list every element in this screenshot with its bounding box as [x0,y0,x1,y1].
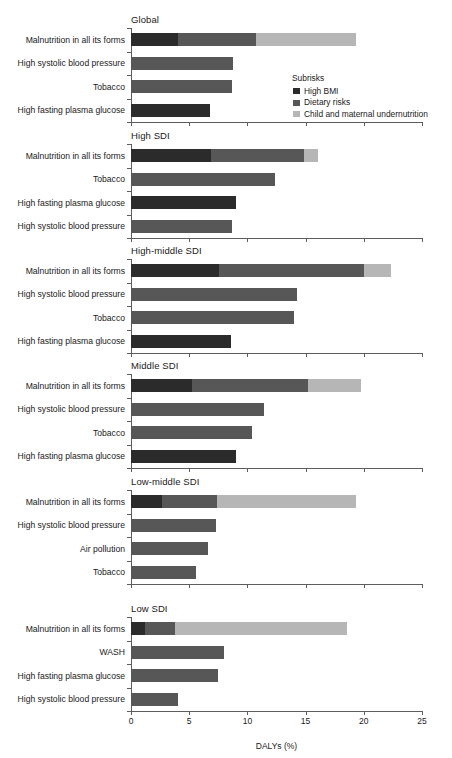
x-axis [131,353,422,354]
legend-label-child-maternal-undernutrition: Child and maternal undernutrition [304,109,428,121]
y-axis-tick [127,191,131,192]
x-axis [131,122,422,123]
x-axis-tick [306,468,307,472]
bar-segment-under [308,379,362,392]
bar-row: High systolic blood pressure [131,57,422,70]
bar-segment-diet [131,403,264,416]
bar-row: High systolic blood pressure [131,288,422,301]
x-axis-tick [247,353,248,357]
bar-segment-bmi [131,495,162,508]
y-axis-tick [127,215,131,216]
bar-segment-diet [131,311,294,324]
bar-row-label: Tobacco [93,82,125,92]
bar-row: Air pollution [131,542,422,555]
bar-segment-diet [211,149,304,162]
x-axis-tick [247,711,248,715]
bar-segment-bmi [131,149,211,162]
y-axis-tick [127,99,131,100]
bar-row: Tobacco [131,566,422,579]
panel-title: Low-middle SDI [131,476,199,487]
bar-segment-under [217,495,356,508]
bar-row: Tobacco [131,426,422,439]
bar-segment-diet [131,57,233,70]
plot-area: Malnutrition in all its formsHigh systol… [131,490,422,584]
legend-item-child-maternal-undernutrition: Child and maternal undernutrition [292,109,428,121]
bar-row: Malnutrition in all its forms [131,495,422,508]
x-axis-tick [131,711,132,715]
y-axis-tick [127,330,131,331]
bar-row: High systolic blood pressure [131,220,422,233]
bar-row-label: Tobacco [93,428,125,438]
bar-row-label: Malnutrition in all its forms [26,497,125,507]
bar-row-label: Malnutrition in all its forms [26,266,125,276]
x-axis-tick [189,122,190,126]
y-axis-tick [127,664,131,665]
plot-area: Malnutrition in all its formsHigh systol… [131,374,422,468]
y-axis-tick [127,374,131,375]
bar-row: Malnutrition in all its forms [131,33,422,46]
bar-segment-diet [162,495,217,508]
bar-segment-under [256,33,356,46]
bar-row-label: High systolic blood pressure [18,58,125,68]
legend-item-high-bmi: High BMI [292,86,428,98]
bar-row: High fasting plasma glucose [131,196,422,209]
x-axis-tick [422,468,423,472]
y-axis-tick [127,490,131,491]
x-axis-tick-label: 25 [417,716,426,726]
legend-swatch-high-bmi [292,87,301,95]
bar-row-label: Malnutrition in all its forms [26,381,125,391]
x-axis-tick [364,353,365,357]
x-axis-tick [364,468,365,472]
bar-segment-under [175,622,347,635]
y-axis-tick [127,537,131,538]
bar-segment-bmi [131,335,231,348]
bar-segment-under [304,149,318,162]
bar-row-label: High fasting plasma glucose [18,198,125,208]
legend-swatch-dietary-risks [292,99,301,107]
x-axis-tick [422,122,423,126]
bar-segment-diet [131,542,208,555]
bar-segment-diet [131,566,196,579]
y-axis-tick [127,283,131,284]
bar-row-label: High systolic blood pressure [18,520,125,530]
bar-row-label: Malnutrition in all its forms [26,624,125,634]
x-axis-tick [247,468,248,472]
legend-label-dietary-risks: Dietary risks [304,97,350,109]
panel-title: Low SDI [131,603,168,614]
x-axis-tick [189,584,190,588]
x-axis: 0510152025 [131,711,422,712]
x-axis-tick [364,711,365,715]
bar-row-label: Malnutrition in all its forms [26,35,125,45]
x-axis-tick [306,711,307,715]
x-axis-tick-label: 15 [301,716,310,726]
x-axis-tick [364,122,365,126]
y-axis-tick [127,306,131,307]
x-axis-tick [306,353,307,357]
y-axis-tick [127,144,131,145]
bar-row: High systolic blood pressure [131,403,422,416]
bar-row: Tobacco [131,173,422,186]
bar-row-label: Tobacco [93,567,125,577]
x-axis-tick [422,353,423,357]
x-axis-tick [247,122,248,126]
y-axis-tick [127,561,131,562]
bar-row: Malnutrition in all its forms [131,622,422,635]
bar-row: High fasting plasma glucose [131,450,422,463]
y-axis-tick [127,75,131,76]
chart-figure: GlobalMalnutrition in all its formsHigh … [0,0,452,758]
bar-segment-bmi [131,450,236,463]
x-axis-tick [247,238,248,242]
bar-row: High systolic blood pressure [131,519,422,532]
x-axis [131,238,422,239]
bar-segment-diet [131,288,297,301]
bar-row-label: WASH [100,647,125,657]
x-axis-tick [189,238,190,242]
x-axis-tick [306,584,307,588]
legend-label-high-bmi: High BMI [304,86,338,98]
y-axis-tick [127,259,131,260]
plot-area: Malnutrition in all its formsHigh systol… [131,259,422,353]
x-axis-tick [422,584,423,588]
x-axis-title: DALYs (%) [131,741,422,751]
x-axis-tick [131,468,132,472]
bar-segment-diet [131,519,216,532]
